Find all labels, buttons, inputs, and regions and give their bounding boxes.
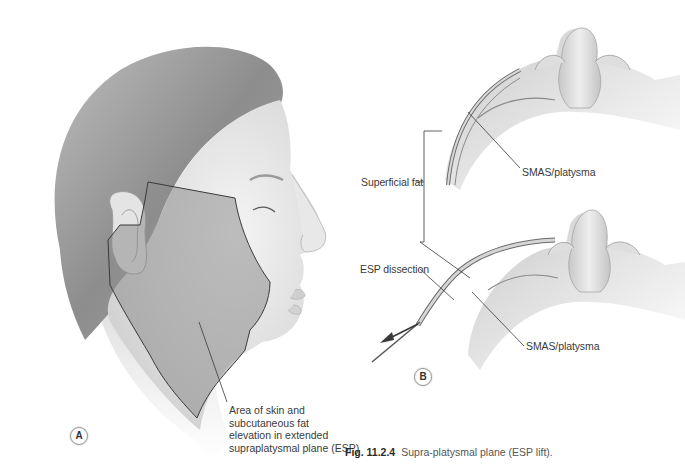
caption-number: Fig. 11.2.4 bbox=[345, 446, 395, 458]
label-esp-area-line3: elevation in extended bbox=[229, 429, 359, 442]
figure-illustration bbox=[0, 0, 685, 470]
label-smas-platysma-bottom: SMAS/platysma bbox=[526, 340, 599, 353]
label-esp-area-line2: subcutaneous fat bbox=[229, 417, 359, 430]
label-esp-dissection: ESP dissection bbox=[360, 263, 429, 276]
label-esp-area: Area of skin and subcutaneous fat elevat… bbox=[229, 404, 359, 454]
label-superficial-fat: Superficial fat bbox=[361, 176, 423, 189]
label-smas-platysma-top: SMAS/platysma bbox=[522, 166, 595, 179]
figure-caption: Fig. 11.2.4Supra-platysmal plane (ESP li… bbox=[345, 446, 553, 458]
panel-badge-a: A bbox=[70, 427, 88, 445]
panel-badge-b: B bbox=[414, 368, 432, 386]
label-esp-area-line1: Area of skin and bbox=[229, 404, 359, 417]
panel-a-face bbox=[55, 47, 326, 460]
caption-text: Supra-platysmal plane (ESP lift). bbox=[401, 446, 553, 458]
label-esp-area-line4: supraplatysmal plane (ESP) bbox=[229, 442, 359, 455]
